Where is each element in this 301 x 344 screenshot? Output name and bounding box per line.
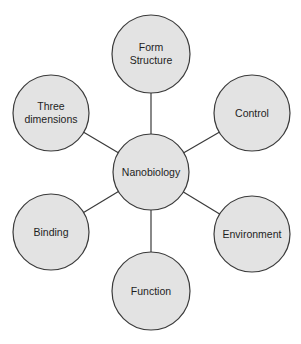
nanobiology-diagram: NanobiologyFormStructureControlEnvironme… — [0, 0, 301, 344]
node-control: Control — [214, 75, 290, 151]
node-binding: Binding — [13, 194, 89, 270]
node-three-dimensions: Threedimensions — [13, 75, 89, 151]
edge-three-dimensions — [84, 132, 119, 152]
node-form-structure: FormStructure — [112, 15, 190, 93]
node-label: Structure — [130, 54, 173, 66]
node-environment: Environment — [214, 196, 290, 272]
node-label: Environment — [223, 228, 282, 240]
node-label: Function — [131, 285, 171, 297]
node-nanobiology: Nanobiology — [113, 134, 189, 210]
node-label: Form — [139, 41, 164, 53]
node-label: Nanobiology — [122, 166, 181, 178]
edge-binding — [84, 192, 119, 213]
node-label: Three — [37, 100, 65, 112]
edge-control — [184, 132, 219, 153]
diagram-canvas: NanobiologyFormStructureControlEnvironme… — [0, 0, 301, 344]
node-label: dimensions — [24, 113, 77, 125]
edge-environment — [183, 192, 219, 214]
nodes: NanobiologyFormStructureControlEnvironme… — [13, 15, 290, 330]
node-label: Control — [235, 107, 269, 119]
node-function: Function — [112, 252, 190, 330]
node-label: Binding — [33, 226, 68, 238]
